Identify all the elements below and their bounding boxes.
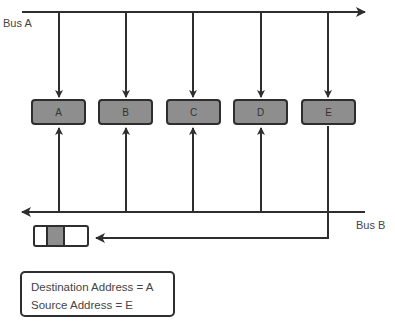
node-c-label: C: [190, 107, 197, 118]
source-address: Source Address = E: [31, 296, 173, 314]
bus-a-label: Bus A: [3, 17, 32, 29]
destination-address: Destination Address = A: [31, 278, 173, 296]
packet-segment-1: [35, 227, 48, 245]
node-d: D: [233, 99, 288, 125]
address-box: Destination Address = A Source Address =…: [20, 271, 175, 317]
node-e-label: E: [325, 107, 332, 118]
bus-b-label: Bus B: [356, 219, 385, 231]
node-b-label: B: [122, 107, 129, 118]
packet-segment-2-highlighted: [48, 227, 65, 245]
packet-segment-3: [65, 227, 87, 245]
node-e: E: [301, 99, 356, 125]
bus-b-taps: [59, 128, 261, 212]
node-b: B: [98, 99, 153, 125]
sender-path: [96, 126, 328, 238]
node-a: A: [31, 99, 86, 125]
node-c: C: [166, 99, 221, 125]
node-d-label: D: [257, 107, 264, 118]
node-a-label: A: [55, 107, 62, 118]
packet: [33, 225, 89, 247]
bus-a-drops: [59, 12, 328, 97]
